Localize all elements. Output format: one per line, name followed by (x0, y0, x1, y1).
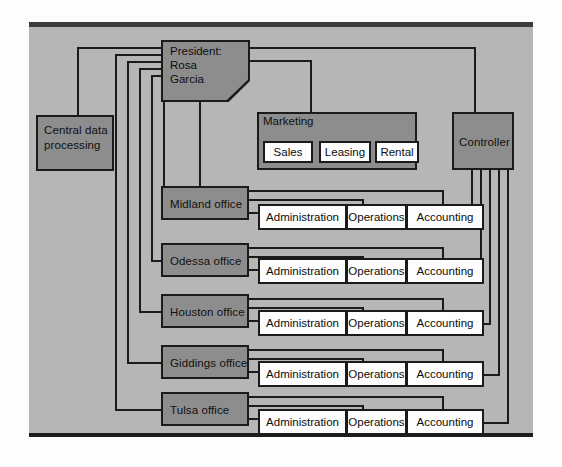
president-to-marketing-h (250, 60, 312, 62)
office-to-accounting-h-4 (247, 396, 444, 398)
president-first-name: Rosa (170, 58, 250, 72)
marketing-subunit-sales[interactable]: Sales (263, 141, 313, 163)
org-chart-diagram: President: Rosa Garcia Central data proc… (0, 0, 562, 467)
president-to-controller-h (250, 47, 476, 49)
president-bracket-h-bot-1 (151, 260, 161, 262)
department-operations[interactable]: Operations (346, 258, 407, 284)
president-bracket-h-bot-3 (127, 362, 161, 364)
controller-rail-v-4 (507, 170, 509, 422)
panel-top-rule (29, 22, 533, 27)
panel-bottom-rule (29, 433, 533, 437)
president-bracket-v-3 (127, 61, 129, 362)
controller-to-accounting-h-3 (484, 374, 500, 376)
marketing-label: Marketing (263, 115, 314, 127)
department-accounting[interactable]: Accounting (406, 361, 484, 387)
office-to-operations-h-4 (247, 405, 364, 407)
department-administration[interactable]: Administration (258, 361, 347, 387)
office-to-accounting-h-1 (247, 247, 444, 249)
president-box[interactable]: President: Rosa Garcia (170, 44, 250, 86)
department-administration[interactable]: Administration (258, 204, 347, 230)
office-to-accounting-h-3 (247, 349, 444, 351)
office-to-accounting-v-4 (442, 396, 444, 409)
department-operations[interactable]: Operations (346, 204, 407, 230)
president-bracket-v-2 (139, 68, 141, 311)
department-operations[interactable]: Operations (346, 361, 407, 387)
controller-label: Controller (459, 136, 510, 150)
department-accounting[interactable]: Accounting (406, 409, 484, 435)
marketing-subunit-rental[interactable]: Rental (375, 141, 419, 163)
president-bracket-h-top-3 (127, 61, 161, 63)
office-box-giddings[interactable]: Giddings office (161, 345, 249, 379)
president-bracket-v-1 (151, 75, 153, 260)
office-label: Tulsa office (170, 404, 229, 418)
central-data-processing-label: Central data processing (44, 123, 114, 152)
office-to-operations-h-0 (247, 199, 364, 201)
office-to-accounting-v-0 (442, 190, 444, 204)
department-operations[interactable]: Operations (346, 409, 407, 435)
president-title: President: (170, 44, 250, 58)
office-label: Houston office (170, 306, 245, 320)
office-to-accounting-v-2 (442, 298, 444, 310)
office-to-accounting-v-3 (442, 349, 444, 361)
department-accounting[interactable]: Accounting (406, 204, 484, 230)
president-bracket-v-4 (115, 54, 117, 409)
controller-rail-v-3 (498, 170, 500, 374)
controller-to-accounting-h-2 (484, 323, 491, 325)
office-to-operations-h-3 (247, 358, 364, 360)
central-data-processing-box[interactable]: Central data processing (36, 115, 114, 171)
office-box-tulsa[interactable]: Tulsa office (161, 392, 249, 426)
controller-box[interactable]: Controller (452, 112, 514, 170)
president-bracket-h-bot-2 (139, 311, 161, 313)
office-to-accounting-h-2 (247, 298, 444, 300)
president-to-midland-v (199, 100, 201, 188)
department-administration[interactable]: Administration (258, 258, 347, 284)
department-accounting[interactable]: Accounting (406, 258, 484, 284)
president-to-cdp-v (77, 47, 79, 117)
president-last-name: Garcia (170, 72, 250, 86)
office-label: Odessa office (170, 255, 241, 269)
controller-rail-v-2 (489, 170, 491, 323)
marketing-subunit-leasing[interactable]: Leasing (319, 141, 371, 163)
president-bracket-h-top-4 (115, 54, 161, 56)
department-administration[interactable]: Administration (258, 409, 347, 435)
department-operations[interactable]: Operations (346, 310, 407, 336)
president-bracket-h-top-2 (139, 68, 161, 70)
office-to-accounting-h-0 (247, 190, 444, 192)
department-administration[interactable]: Administration (258, 310, 347, 336)
office-to-operations-h-2 (247, 307, 364, 309)
office-label: Giddings office (170, 357, 247, 371)
office-box-midland[interactable]: Midland office (161, 186, 249, 220)
controller-to-accounting-h-4 (484, 422, 509, 424)
president-to-marketing-v (310, 60, 312, 114)
department-accounting[interactable]: Accounting (406, 310, 484, 336)
president-to-controller-v (474, 47, 476, 114)
president-bracket-h-bot-4 (115, 409, 161, 411)
office-box-odessa[interactable]: Odessa office (161, 243, 249, 277)
office-box-houston[interactable]: Houston office (161, 294, 249, 328)
president-to-cdp-h (77, 47, 163, 49)
office-to-accounting-v-1 (442, 247, 444, 258)
office-label: Midland office (170, 198, 242, 212)
